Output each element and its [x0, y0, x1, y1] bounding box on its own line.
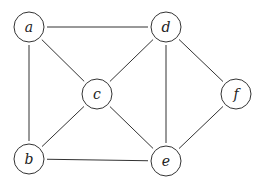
node-label: c: [93, 86, 101, 102]
node-f: f: [221, 79, 251, 109]
edge-c-e: [110, 107, 153, 149]
edges: [29, 27, 223, 161]
edge-a-c: [42, 40, 84, 82]
node-c: c: [82, 79, 112, 109]
nodes: abcdef: [14, 12, 251, 176]
node-a: a: [14, 12, 44, 42]
edge-d-f: [179, 39, 223, 81]
edge-f-e: [179, 106, 223, 148]
node-label: b: [25, 151, 34, 167]
edge-b-e: [47, 159, 148, 160]
edge-d-c: [110, 40, 153, 82]
node-label: e: [162, 153, 170, 169]
node-b: b: [14, 144, 44, 174]
node-d: d: [151, 12, 181, 42]
graph-diagram: abcdef: [0, 0, 265, 185]
edge-c-b: [42, 106, 84, 146]
node-label: d: [162, 19, 171, 35]
node-label: a: [25, 19, 33, 35]
node-e: e: [151, 146, 181, 176]
